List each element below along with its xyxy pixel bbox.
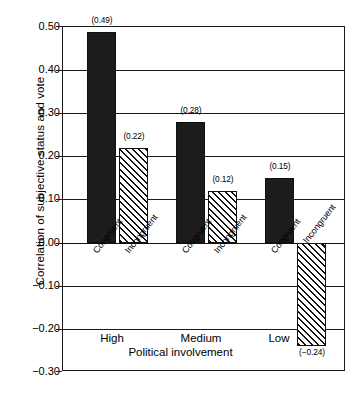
value-label-medium-incongruent: (0.12) <box>198 175 248 184</box>
tick-neg0_10 <box>56 286 62 287</box>
group-label-medium: Medium <box>171 332 231 344</box>
group-label-low: Low <box>259 332 299 344</box>
tick-neg0_20 <box>56 329 62 330</box>
y-tick-label: 0.30 <box>18 107 60 117</box>
tick-0_10 <box>56 199 62 200</box>
value-label-high-incongruent: (0.22) <box>109 132 159 141</box>
bar-chart-figure: Correlation of subjective status and vot… <box>0 0 361 408</box>
y-tick-label: 0.10 <box>18 193 60 203</box>
y-tick-label: −0.30 <box>18 366 60 376</box>
tick-0_00 <box>56 243 62 244</box>
y-tick-label: 0.50 <box>18 21 60 31</box>
value-label-low-congruent: (0.15) <box>255 162 305 171</box>
bar-low-incongruent <box>297 243 326 346</box>
group-label-high: High <box>82 332 142 344</box>
tick-0_30 <box>56 113 62 114</box>
tick-0_40 <box>56 70 62 71</box>
tick-neg0_30 <box>56 371 62 372</box>
series-label-low-incongruent: Incongruent <box>301 202 337 245</box>
plot-area: (0.49) (0.22) (0.28) (0.12) (0.15) (−0.2… <box>62 26 345 371</box>
y-tick-label: −0.10 <box>18 280 60 290</box>
value-label-medium-congruent: (0.28) <box>166 106 216 115</box>
tick-0_20 <box>56 156 62 157</box>
y-tick-label: 0.40 <box>18 64 60 74</box>
x-axis-title: Political involvement <box>0 346 361 358</box>
y-tick-label: −0.20 <box>18 323 60 333</box>
tick-0_50 <box>56 26 62 27</box>
y-tick-label: 0.00 <box>18 237 60 247</box>
y-tick-label: 0.20 <box>18 150 60 160</box>
value-label-high-congruent: (0.49) <box>77 16 127 25</box>
